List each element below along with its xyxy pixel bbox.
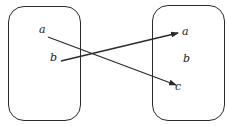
mapping-arrows <box>0 0 228 127</box>
arrow-a-to-c <box>48 37 176 85</box>
arrow-b-to-a <box>61 33 178 61</box>
